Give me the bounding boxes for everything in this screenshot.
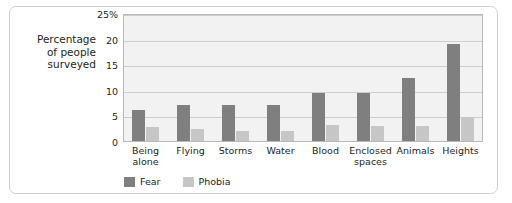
legend-swatch-phobia: [183, 177, 194, 187]
plot-inner: [124, 15, 482, 141]
bar-fear: [447, 44, 460, 141]
bar-fear: [402, 78, 415, 141]
bar-group: [177, 15, 204, 141]
legend-item-phobia: Phobia: [183, 176, 231, 187]
x-axis-label: Blood: [303, 145, 348, 156]
x-axis-label: Animals: [393, 145, 438, 156]
bar-group: [312, 15, 339, 141]
bar-phobia: [326, 125, 339, 141]
x-axis-label: Enclosed spaces: [348, 145, 393, 167]
bar-fear: [132, 110, 145, 141]
x-axis-label: Storms: [213, 145, 258, 156]
bar-group: [447, 15, 474, 141]
y-tick-label-5: 5: [78, 111, 118, 122]
bar-group: [132, 15, 159, 141]
x-axis-category-labels: Being aloneFlyingStormsWaterBloodEnclose…: [123, 145, 483, 171]
x-axis-label: Flying: [168, 145, 213, 156]
bar-phobia: [461, 117, 474, 141]
bar-phobia: [281, 131, 294, 141]
bar-fear: [312, 93, 325, 141]
bar-fear: [267, 105, 280, 141]
bar-chart-figure: Percentage of people surveyed 0510152025…: [0, 0, 512, 203]
bar-phobia: [191, 129, 204, 141]
plot-area: [123, 14, 483, 142]
y-tick-label-0: 0: [78, 137, 118, 148]
legend-label: Phobia: [199, 176, 231, 187]
bar-phobia: [416, 126, 429, 141]
bar-group: [267, 15, 294, 141]
y-tick-label-15: 15: [78, 60, 118, 71]
bar-phobia: [146, 127, 159, 141]
bar-fear: [222, 105, 235, 141]
bar-phobia: [236, 131, 249, 141]
x-axis-label: Heights: [438, 145, 483, 156]
x-axis-label: Water: [258, 145, 303, 156]
legend-label: Fear: [140, 176, 161, 187]
y-tick-label-25%: 25%: [78, 9, 118, 20]
y-tick-label-20: 20: [78, 34, 118, 45]
legend-swatch-fear: [124, 177, 135, 187]
bar-group: [357, 15, 384, 141]
x-axis-label: Being alone: [123, 145, 168, 167]
chart-legend: FearPhobia: [124, 176, 245, 187]
bar-group: [222, 15, 249, 141]
bar-fear: [357, 93, 370, 141]
y-tick-label-10: 10: [78, 85, 118, 96]
bar-group: [402, 15, 429, 141]
bar-fear: [177, 105, 190, 141]
legend-item-fear: Fear: [124, 176, 161, 187]
bar-phobia: [371, 126, 384, 141]
y-axis-tick-labels: 0510152025%: [74, 14, 118, 142]
